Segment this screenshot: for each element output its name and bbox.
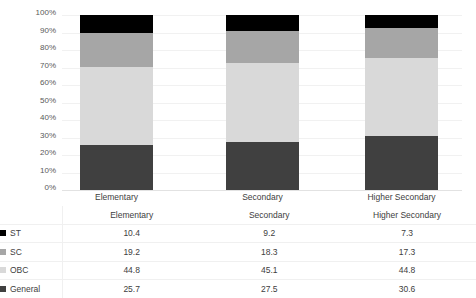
table-value-cell: 18.3 [200, 243, 338, 262]
bar-segment-st[interactable] [365, 15, 438, 28]
table-value-cell: 25.7 [63, 280, 201, 298]
bar-segment-general[interactable] [226, 142, 299, 190]
bar-segment-sc[interactable] [226, 31, 299, 63]
bar-segment-general[interactable] [80, 145, 153, 190]
y-axis-tick-label: 100% [0, 9, 56, 17]
table-header-row: ElementarySecondaryHigher Secondary [0, 206, 476, 224]
plot-area [62, 15, 462, 190]
table-value-cell: 10.4 [63, 224, 201, 243]
legend-entry[interactable]: ST [0, 224, 63, 243]
y-axis-tick-label: 40% [0, 114, 56, 122]
y-axis-tick-label: 20% [0, 149, 56, 157]
bar-segment-obc[interactable] [365, 58, 438, 136]
bar-segment-sc[interactable] [80, 33, 153, 67]
data-table-body: ElementarySecondaryHigher SecondaryST10.… [0, 206, 476, 298]
legend-label: ST [10, 228, 21, 238]
bar-segment-obc[interactable] [226, 63, 299, 142]
bar-segment-st[interactable] [80, 15, 153, 33]
legend-label: OBC [10, 265, 28, 275]
x-axis: ElementarySecondaryHigher Secondary [62, 192, 462, 206]
table-value-cell: 27.5 [200, 280, 338, 298]
table-value-cell: 45.1 [200, 261, 338, 280]
chart-title [0, 0, 476, 2]
table-row: General25.727.530.6 [0, 280, 476, 298]
y-axis-tick-label: 0% [0, 184, 56, 192]
table-header-cell: Secondary [200, 206, 338, 224]
legend-entry[interactable]: General [0, 280, 63, 298]
bar-column[interactable] [226, 15, 299, 190]
table-row: SC19.218.317.3 [0, 243, 476, 262]
bar-segment-obc[interactable] [80, 67, 153, 145]
y-axis-tick-label: 60% [0, 79, 56, 87]
table-row: OBC44.845.144.8 [0, 261, 476, 280]
y-axis: 100%90%80%70%60%50%40%30%20%10%0% [0, 9, 56, 196]
y-axis-tick-label: 30% [0, 132, 56, 140]
bar-column[interactable] [80, 15, 153, 190]
legend-entry[interactable]: SC [0, 243, 63, 262]
legend-swatch-icon [0, 267, 6, 273]
bar-column[interactable] [365, 15, 438, 190]
table-header-cell: Elementary [63, 206, 201, 224]
table-value-cell: 7.3 [338, 224, 476, 243]
y-axis-tick-label: 50% [0, 97, 56, 105]
y-axis-tick-label: 80% [0, 44, 56, 52]
y-axis-tick-label: 90% [0, 27, 56, 35]
legend-swatch-icon [0, 286, 6, 292]
gridline [62, 190, 462, 191]
table-header-cell: Higher Secondary [338, 206, 476, 224]
table-value-cell: 44.8 [338, 261, 476, 280]
bar-segment-sc[interactable] [365, 28, 438, 58]
legend-swatch-icon [0, 249, 6, 255]
y-axis-tick-label: 70% [0, 62, 56, 70]
bar-segment-st[interactable] [226, 15, 299, 31]
table-value-cell: 17.3 [338, 243, 476, 262]
table-value-cell: 9.2 [200, 224, 338, 243]
legend-label: General [10, 284, 40, 294]
table-value-cell: 30.6 [338, 280, 476, 298]
x-axis-category-label: Secondary [198, 192, 328, 203]
x-axis-category-label: Higher Secondary [337, 192, 467, 203]
bar-segment-general[interactable] [365, 136, 438, 190]
legend-label: SC [10, 247, 22, 257]
table-value-cell: 44.8 [63, 261, 201, 280]
legend-swatch-icon [0, 230, 6, 236]
bar-series-group [62, 15, 462, 190]
table-value-cell: 19.2 [63, 243, 201, 262]
legend-entry[interactable]: OBC [0, 261, 63, 280]
data-table: ElementarySecondaryHigher SecondaryST10.… [0, 206, 476, 298]
table-row: ST10.49.27.3 [0, 224, 476, 243]
table-corner-cell [0, 206, 63, 224]
x-axis-category-label: Elementary [52, 192, 182, 203]
y-axis-tick-label: 10% [0, 167, 56, 175]
